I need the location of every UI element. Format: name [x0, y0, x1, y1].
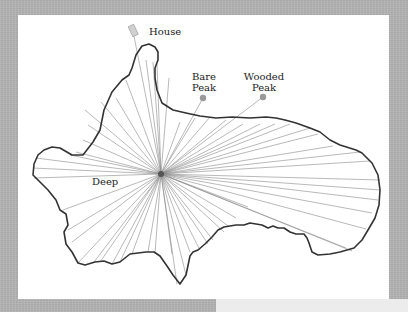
- house-icon: [128, 24, 138, 37]
- bare-peak-marker: [200, 95, 206, 101]
- deep-point-marker: [158, 171, 164, 177]
- wooded-peak-label-line2: Peak: [252, 82, 277, 93]
- bare-peak-label-line2: Peak: [192, 82, 217, 93]
- bare-peak-label-line1: Bare: [192, 71, 216, 82]
- lake-diagram: House Bare Peak Wooded Peak Deep: [0, 0, 408, 312]
- house-label: House: [149, 26, 181, 37]
- wooded-peak-marker: [260, 94, 266, 100]
- deep-label: Deep: [92, 176, 118, 187]
- wooded-peak-label-line1: Wooded: [244, 71, 285, 82]
